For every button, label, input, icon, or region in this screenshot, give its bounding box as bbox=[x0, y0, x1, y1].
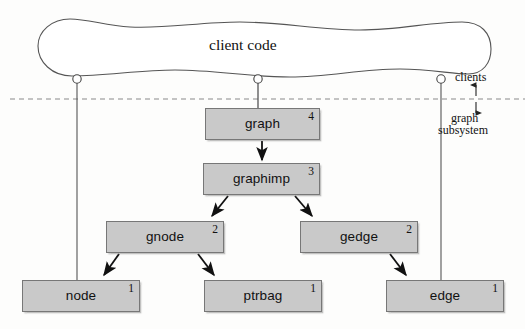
box-ptrbag-badge: 1 bbox=[310, 282, 316, 295]
box-gnode[interactable]: gnode 2 bbox=[106, 221, 224, 253]
box-ptrbag[interactable]: ptrbag 1 bbox=[204, 280, 322, 312]
box-gnode-badge: 2 bbox=[212, 223, 218, 236]
interface-ball-node bbox=[73, 75, 81, 83]
box-gedge-badge: 2 bbox=[406, 223, 412, 236]
diagram-canvas: client code clients graph subsystem grap… bbox=[0, 0, 525, 329]
box-gedge-label: gedge bbox=[340, 230, 378, 244]
arrow-gedge-to-edge bbox=[390, 254, 406, 275]
region-label-clients: clients bbox=[455, 71, 486, 84]
arrow-gnode-to-node bbox=[104, 254, 119, 275]
arrow-gnode-to-ptrbag bbox=[198, 254, 214, 275]
box-node-label: node bbox=[66, 289, 96, 303]
box-graphimp[interactable]: graphimp 3 bbox=[203, 163, 320, 195]
box-node-badge: 1 bbox=[128, 282, 134, 295]
box-edge-label: edge bbox=[430, 289, 460, 303]
arrow-graphimp-to-gedge bbox=[295, 196, 312, 216]
box-gnode-label: gnode bbox=[146, 230, 184, 244]
client-code-label: client code bbox=[209, 36, 277, 54]
region-label-subsystem: subsystem bbox=[438, 124, 488, 137]
box-graphimp-label: graphimp bbox=[233, 172, 290, 186]
box-ptrbag-label: ptrbag bbox=[244, 289, 283, 303]
box-node[interactable]: node 1 bbox=[22, 280, 140, 312]
box-gedge[interactable]: gedge 2 bbox=[300, 221, 418, 253]
interface-ball-edge bbox=[437, 75, 445, 83]
box-graphimp-badge: 3 bbox=[308, 165, 314, 178]
interface-ball-graph bbox=[254, 75, 262, 83]
box-edge-badge: 1 bbox=[492, 282, 498, 295]
box-graph-label: graph bbox=[245, 117, 280, 131]
box-graph[interactable]: graph 4 bbox=[205, 108, 320, 140]
box-graph-badge: 4 bbox=[308, 110, 314, 123]
box-edge[interactable]: edge 1 bbox=[386, 280, 504, 312]
arrow-graphimp-to-gnode bbox=[212, 196, 228, 216]
